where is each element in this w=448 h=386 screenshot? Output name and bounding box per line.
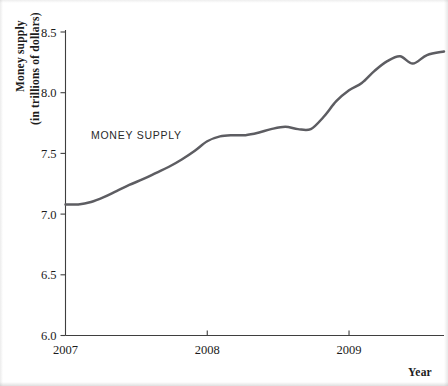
y-axis-title-line1: Money supply	[14, 20, 27, 92]
line-chart: Money supply (in trillions of dollars) 6…	[0, 0, 448, 386]
x-tick-label: 2009	[337, 343, 362, 357]
y-tick-label: 6.0	[41, 329, 57, 343]
x-axis-ticks: 200720082009	[53, 331, 362, 357]
y-axis-ticks: 6.06.57.07.58.08.5	[41, 26, 66, 344]
x-tick-label: 2008	[195, 343, 220, 357]
x-axis-title: Year	[408, 366, 432, 378]
y-axis-title: Money supply (in trillions of dollars)	[14, 12, 42, 125]
y-tick-label: 7.5	[41, 147, 57, 161]
y-tick-label: 7.0	[41, 208, 57, 222]
y-tick-label: 8.0	[41, 86, 57, 100]
x-tick-label: 2007	[53, 343, 78, 357]
y-tick-label: 6.5	[41, 268, 57, 282]
y-tick-label: 8.5	[41, 26, 57, 40]
chart-figure: Money supply (in trillions of dollars) 6…	[0, 0, 448, 386]
series-annotations: MONEY SUPPLY	[91, 129, 182, 141]
series-inline-label: MONEY SUPPLY	[91, 129, 182, 141]
